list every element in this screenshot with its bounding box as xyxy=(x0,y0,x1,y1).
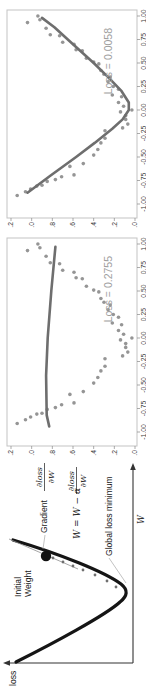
scatter-point xyxy=(60,403,64,407)
scatter-point xyxy=(29,415,33,419)
y-tick-label: 0.8 xyxy=(49,450,56,456)
w-axis-arrow-icon xyxy=(130,463,136,470)
loss-axis-arrow-icon xyxy=(3,660,10,666)
x-tick-label: -1.00 xyxy=(140,196,146,212)
scatter-point xyxy=(119,338,123,342)
x-tick-label: -1.00 xyxy=(140,424,146,440)
gradient-frac-denominator: ∂W xyxy=(47,470,56,483)
scatter-point xyxy=(122,104,126,108)
x-tick-label: 0.00 xyxy=(140,331,146,344)
scatter-point xyxy=(117,316,121,320)
scatter-point xyxy=(36,242,40,246)
x-tick-label: -0.50 xyxy=(140,149,146,165)
y-tick-label: 0.4 xyxy=(90,450,97,456)
scatter-point xyxy=(36,14,40,18)
loss-value-label: Loss = 0.0058 xyxy=(102,28,114,94)
x-tick-label: 0.25 xyxy=(140,308,146,321)
scatter-point xyxy=(103,357,107,361)
scatter-point xyxy=(26,21,30,25)
scatter-point xyxy=(96,148,100,152)
y-tick-label: 0.6 xyxy=(69,450,76,456)
scatter-point xyxy=(130,336,134,340)
scatter-point xyxy=(99,141,103,145)
scatter-point xyxy=(15,422,19,426)
loss-chart-high: -1.00-0.75-0.50-0.250.000.250.500.751.00… xyxy=(0,228,146,456)
y-tick-label: 0.2 xyxy=(111,450,118,456)
x-tick-label: 1.00 xyxy=(140,237,146,250)
scatter-point xyxy=(124,342,128,346)
scatter-point xyxy=(72,270,76,274)
gradient-label: Gradient xyxy=(39,499,49,533)
rotated-figure-viewport: loss W Initial Weight Gradient ∂los xyxy=(0,0,146,689)
scatter-point xyxy=(126,350,130,354)
scatter-point xyxy=(38,246,42,250)
scatter-point xyxy=(122,332,126,336)
loss-axis-label: loss xyxy=(8,671,18,686)
scatter-point xyxy=(130,108,134,112)
scatter-point xyxy=(58,262,62,266)
scatter-point xyxy=(126,122,130,126)
scatter-point xyxy=(117,101,121,105)
fit-line xyxy=(46,247,55,427)
gradient-frac-numerator: ∂loss xyxy=(35,467,44,487)
scatter-point xyxy=(81,277,85,281)
scatter-point xyxy=(120,323,124,327)
scatter-point xyxy=(119,110,123,114)
gradient-descent-diagram: loss W Initial Weight Gradient ∂los xyxy=(0,456,146,689)
y-tick-label: 0.8 xyxy=(49,222,56,228)
initial-weight-dot xyxy=(41,551,51,561)
plot-box xyxy=(7,238,137,446)
descent-step-dots xyxy=(52,557,118,589)
scatter-point xyxy=(35,412,39,416)
scatter-point xyxy=(103,364,107,368)
scatter-point xyxy=(60,175,64,179)
x-tick-label: -0.25 xyxy=(140,354,146,370)
scatter-point xyxy=(49,261,53,265)
scatter-point xyxy=(121,354,125,358)
scatter-point xyxy=(82,162,86,166)
gradient-pointer-line xyxy=(43,535,45,549)
x-tick-label: 1.00 xyxy=(140,9,146,22)
scatter-point xyxy=(61,41,65,45)
scatter-point xyxy=(99,369,103,373)
initial-weight-label-line1: Initial xyxy=(13,577,23,597)
equation-frac-numerator: ∂loss xyxy=(67,471,76,491)
scatter-point xyxy=(26,249,30,253)
scatter-point xyxy=(54,178,58,182)
scatter-point xyxy=(92,288,96,292)
scatter-point xyxy=(40,411,44,415)
loss-chart-low: -1.00-0.75-0.50-0.250.000.250.500.751.00… xyxy=(0,0,146,228)
scatter-point xyxy=(72,173,76,177)
scatter-point xyxy=(121,126,125,130)
initial-weight-label-line2: Weight xyxy=(23,570,33,597)
x-tick-label: -0.25 xyxy=(140,126,146,142)
scatter-point xyxy=(92,153,96,157)
y-tick-label: 1.0 xyxy=(28,450,35,456)
global-minimum-label: Global loss minimum xyxy=(104,476,114,556)
scatter-point xyxy=(15,194,19,198)
scatter-point xyxy=(97,290,101,294)
scatter-point xyxy=(96,376,100,380)
scatter-point xyxy=(74,276,78,280)
scatter-point xyxy=(85,285,89,289)
scatter-point xyxy=(72,401,76,405)
scatter-point xyxy=(61,269,65,273)
y-tick-label: 1.0 xyxy=(28,222,35,228)
scatter-point xyxy=(92,381,96,385)
x-tick-label: 0.50 xyxy=(140,56,146,69)
scatter-point xyxy=(44,26,48,30)
x-tick-label: 0.25 xyxy=(140,80,146,93)
scatter-point xyxy=(82,390,86,394)
plot-box xyxy=(7,10,137,218)
y-tick-label: 0.0 xyxy=(131,450,138,456)
y-tick-label: 1.2 xyxy=(7,222,14,228)
scatter-point xyxy=(103,129,107,133)
gradient-fraction: ∂loss ∂W xyxy=(35,463,56,491)
x-tick-label: -0.75 xyxy=(140,173,146,189)
update-equation: W = W − α xyxy=(72,488,82,539)
y-tick-label: 0.4 xyxy=(90,222,97,228)
figure-strip: loss W Initial Weight Gradient ∂los xyxy=(0,0,146,689)
equation-frac-denominator: ∂W xyxy=(79,474,88,487)
x-tick-label: -0.75 xyxy=(140,401,146,417)
scatter-point xyxy=(54,406,58,410)
